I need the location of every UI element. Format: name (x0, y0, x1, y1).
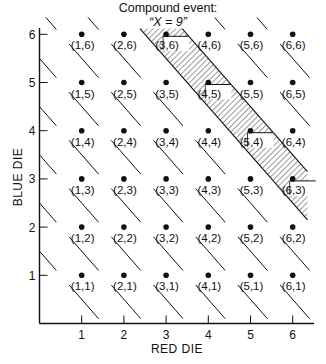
sample-point (248, 273, 254, 279)
sample-point (163, 273, 169, 279)
sample-point (290, 32, 296, 38)
sample-point (79, 273, 85, 279)
sample-point (121, 273, 127, 279)
sample-point (79, 32, 85, 38)
sample-point (79, 176, 85, 182)
point-label: (4,1) (197, 280, 221, 292)
sum-boundary-line (88, 17, 99, 29)
sample-point (121, 128, 127, 134)
sample-point (248, 80, 254, 86)
sample-point (163, 32, 169, 38)
x-tick-label: 6 (289, 328, 296, 342)
point-label: (3,2) (155, 232, 179, 244)
point-label: (5,2) (240, 232, 264, 244)
sample-point (79, 224, 85, 230)
x-tick-label: 5 (247, 328, 254, 342)
sample-point (290, 273, 296, 279)
sum-boundary-line (40, 58, 57, 77)
point-label: (4,5) (197, 88, 221, 100)
y-tick-label: 5 (29, 76, 36, 90)
x-tick-label: 4 (205, 328, 212, 342)
x-axis-label: RED DIE (40, 342, 314, 356)
point-label: (3,5) (155, 88, 179, 100)
point-label: (2,4) (113, 136, 137, 148)
x-tick-label: 2 (121, 328, 128, 342)
sample-point (121, 224, 127, 230)
sample-point (206, 273, 212, 279)
point-label: (2,1) (113, 280, 137, 292)
sample-point (290, 80, 296, 86)
sample-point (206, 80, 212, 86)
point-label: (2,2) (113, 232, 137, 244)
sum-boundary-line (46, 17, 57, 29)
point-label: (2,3) (113, 184, 137, 196)
point-label: (3,4) (155, 136, 179, 148)
sample-space-plot: 123456123456(1,1)(2,1)(3,1)(4,1)(5,1)(6,… (0, 0, 326, 364)
point-label: (6,6) (282, 39, 306, 51)
sample-point (248, 128, 254, 134)
point-label: (4,4) (197, 136, 221, 148)
point-label: (3,1) (155, 280, 179, 292)
point-label: (5,3) (240, 184, 264, 196)
sample-point (163, 224, 169, 230)
point-label: (3,6) (155, 39, 179, 51)
sum-boundary-line (215, 17, 226, 29)
sample-point (248, 224, 254, 230)
y-tick-label: 1 (29, 269, 36, 283)
sum-boundary-line (40, 107, 57, 126)
point-label: (4,3) (197, 184, 221, 196)
point-label: (1,3) (71, 184, 95, 196)
point-label: (1,2) (71, 232, 95, 244)
sample-point (163, 80, 169, 86)
point-label: (6,5) (282, 88, 306, 100)
point-label: (4,6) (197, 39, 221, 51)
sample-point (79, 128, 85, 134)
sample-point (248, 32, 254, 38)
point-label: (1,1) (71, 280, 95, 292)
sum-boundary-line (40, 203, 57, 222)
sample-point (290, 128, 296, 134)
sample-point (121, 80, 127, 86)
point-label: (1,5) (71, 88, 95, 100)
y-tick-label: 3 (29, 172, 36, 186)
point-label: (2,5) (113, 88, 137, 100)
sample-point (206, 32, 212, 38)
sum-boundary-line (40, 251, 57, 270)
y-tick-label: 2 (29, 221, 36, 235)
sample-point (121, 32, 127, 38)
sample-point (163, 128, 169, 134)
x-tick-label: 1 (78, 328, 85, 342)
point-label: (4,2) (197, 232, 221, 244)
sum-boundary-line (257, 17, 268, 29)
sample-point (290, 176, 296, 182)
sample-point (206, 176, 212, 182)
point-label: (1,6) (71, 39, 95, 51)
point-label: (1,4) (71, 136, 95, 148)
point-label: (5,6) (240, 39, 264, 51)
sample-point (290, 224, 296, 230)
sum-boundary-line (40, 155, 57, 174)
sample-point (206, 224, 212, 230)
sample-point (121, 176, 127, 182)
point-label: (6,1) (282, 280, 306, 292)
sample-point (163, 176, 169, 182)
y-tick-label: 4 (29, 124, 36, 138)
x-tick-label: 3 (163, 328, 170, 342)
point-label: (3,3) (155, 184, 179, 196)
point-label: (5,4) (240, 136, 264, 148)
point-label: (5,5) (240, 88, 264, 100)
sample-point (206, 128, 212, 134)
sample-point (79, 80, 85, 86)
sample-point (248, 176, 254, 182)
point-label: (6,2) (282, 232, 306, 244)
point-label: (2,6) (113, 39, 137, 51)
y-axis-label: BLUE DIE (11, 137, 25, 217)
point-label: (5,1) (240, 280, 264, 292)
point-label: (6,3) (282, 184, 306, 196)
point-label: (6,4) (282, 136, 306, 148)
y-tick-label: 6 (29, 28, 36, 42)
